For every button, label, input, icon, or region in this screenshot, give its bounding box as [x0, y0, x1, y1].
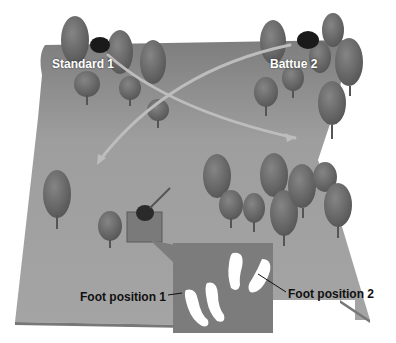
trap-house-2	[297, 31, 319, 49]
foot-position-2-label: Foot position 2	[288, 287, 374, 301]
stand-label-standard-1: Standard 1	[52, 57, 114, 71]
stand-label-battue-2: Battue 2	[270, 57, 317, 71]
clay-shooting-diagram: Standard 1 Battue 2 Foot position 1 Foot…	[0, 0, 396, 343]
foot-position-1-label: Foot position 1	[80, 290, 166, 304]
trap-house-1	[90, 37, 110, 53]
